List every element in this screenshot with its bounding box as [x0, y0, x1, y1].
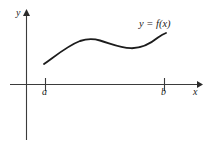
x-axis-arrowhead — [197, 81, 203, 88]
figure-container: y x a b y = f(x) — [0, 0, 213, 147]
function-label: y = f(x) — [139, 19, 171, 30]
graph-canvas — [0, 0, 213, 147]
y-axis-label: y — [16, 8, 20, 18]
x-axis-label: x — [193, 87, 197, 97]
function-curve — [44, 33, 166, 64]
interval-end-label: b — [161, 87, 166, 97]
interval-start-label: a — [42, 87, 47, 97]
y-axis-arrowhead — [23, 9, 30, 16]
